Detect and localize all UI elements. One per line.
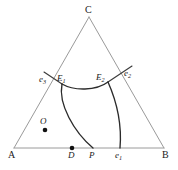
boundary-E1-P <box>61 84 93 148</box>
point-label-e1-sub: 1 <box>119 154 122 161</box>
point-label-D: D <box>67 150 75 160</box>
triangle-edge-ac <box>14 17 89 148</box>
triangle-edge-bc <box>89 17 164 148</box>
dot-O <box>43 128 48 133</box>
vertex-label-c: C <box>85 4 92 15</box>
point-label-e2: e2 <box>124 68 131 79</box>
vertex-label-a: A <box>8 149 16 160</box>
ternary-diagram-svg: A B C E1 E2 e1 e2 e3 O D P <box>0 0 178 170</box>
point-label-e1: e1 <box>115 150 122 161</box>
vertex-label-b: B <box>162 149 169 160</box>
figure-root: A B C E1 E2 e1 e2 e3 O D P <box>0 0 178 170</box>
point-labels: E1 E2 e1 e2 e3 O D P <box>39 68 131 161</box>
vertex-labels: A B C <box>8 4 169 160</box>
point-label-P: P <box>88 150 95 160</box>
point-label-e3-sub: 3 <box>42 78 46 85</box>
boundary-E2-e1 <box>108 82 120 148</box>
composition-dots <box>43 128 75 151</box>
phase-boundaries <box>61 82 120 148</box>
point-label-E1: E1 <box>56 73 66 84</box>
point-label-O: O <box>40 116 47 126</box>
point-label-E1-sub: 1 <box>63 77 66 84</box>
point-label-e3: e3 <box>39 74 46 85</box>
point-label-E2: E2 <box>95 72 105 83</box>
point-label-E2-sub: 2 <box>102 76 105 83</box>
point-label-e2-sub: 2 <box>128 72 131 79</box>
triangle-outline <box>14 17 164 148</box>
